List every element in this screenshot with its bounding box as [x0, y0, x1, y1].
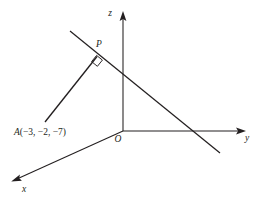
x-axis-label: x — [21, 184, 27, 194]
segment-a-to-p — [45, 57, 97, 123]
point-p-label: P — [95, 39, 102, 49]
point-a-coords: (−3, −2, −7) — [20, 127, 66, 138]
x-axis-line — [18, 131, 123, 179]
x-axis-arrowhead — [11, 175, 22, 182]
y-axis-label: y — [244, 133, 250, 143]
origin-label: O — [115, 134, 122, 144]
point-a-label: A(−3, −2, −7) — [13, 127, 66, 138]
z-axis-label: z — [107, 8, 112, 18]
line-through-p — [70, 31, 220, 153]
coordinate-diagram: z y x O P A(−3, −2, −7) — [0, 0, 262, 206]
figure-root: z y x O P A(−3, −2, −7) — [0, 0, 262, 206]
